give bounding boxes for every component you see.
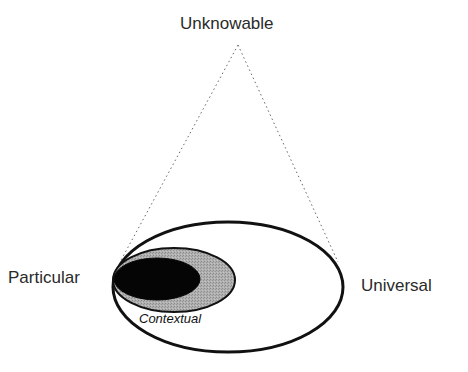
particular-label: Particular: [8, 268, 80, 288]
unknowable-label: Unknowable: [180, 14, 274, 34]
diagram-canvas: [0, 0, 468, 372]
universal-label: Universal: [361, 276, 432, 296]
particular-core-ellipse: [114, 258, 200, 300]
contextual-label: Contextual: [139, 311, 201, 326]
